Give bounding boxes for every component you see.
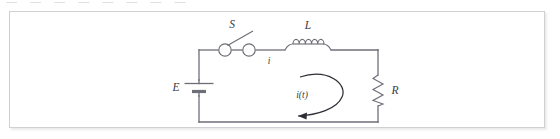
current-label-i: i — [268, 56, 271, 66]
switch-label: S — [229, 18, 235, 30]
inductor-label: L — [304, 19, 311, 31]
loop-current-arrowhead — [298, 113, 307, 120]
resistor-label: R — [390, 84, 398, 96]
source-label: E — [171, 81, 179, 93]
circuit-schematic: S L i E R — [10, 12, 546, 129]
figure-root: — — — — — — — — — [0, 0, 560, 139]
switch-terminal-right — [243, 44, 255, 56]
inductor-coil-loops — [293, 39, 324, 44]
inductor-lead-left — [285, 44, 293, 50]
resistor-zigzag — [373, 75, 383, 106]
figure-frame: S L i E R — [9, 11, 545, 128]
switch-terminal-left — [219, 44, 231, 56]
loop-current-label: i(t) — [296, 90, 308, 101]
inductor-lead-right — [323, 44, 331, 50]
page-cut-off-text: — — — — — — — — — [6, 0, 306, 6]
